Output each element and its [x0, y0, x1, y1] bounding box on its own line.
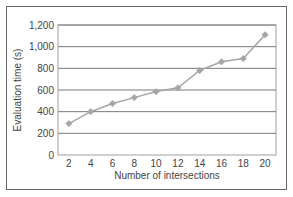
x-tick-label: 2 — [66, 158, 72, 169]
y-tick-label: 0 — [48, 150, 54, 161]
data-line — [69, 35, 265, 124]
x-tick-label: 6 — [110, 158, 116, 169]
diamond-marker — [88, 108, 94, 114]
gridlines — [58, 25, 276, 133]
x-axis-ticks: 2468101214161820 — [66, 158, 271, 169]
y-tick-label: 800 — [37, 63, 54, 74]
y-tick-label: 1,000 — [29, 41, 54, 52]
x-tick-label: 4 — [88, 158, 94, 169]
y-tick-label: 200 — [37, 128, 54, 139]
diamond-marker — [153, 88, 159, 94]
y-axis-ticks: 02004006008001,0001,200 — [29, 20, 54, 161]
diamond-marker — [109, 100, 115, 106]
x-tick-label: 18 — [238, 158, 250, 169]
diamond-marker — [218, 59, 224, 65]
x-tick-label: 8 — [132, 158, 138, 169]
y-tick-label: 600 — [37, 85, 54, 96]
x-axis-label: Number of intersections — [114, 170, 220, 181]
x-tick-label: 20 — [260, 158, 272, 169]
diamond-marker — [66, 120, 72, 126]
data-markers — [66, 32, 269, 127]
x-tick-label: 16 — [216, 158, 228, 169]
y-tick-label: 1,200 — [29, 20, 54, 31]
x-tick-label: 10 — [151, 158, 163, 169]
x-tick-label: 12 — [172, 158, 184, 169]
diamond-marker — [131, 94, 137, 100]
y-axis-label: Evaluation time (s) — [12, 49, 23, 132]
line-chart: 02004006008001,0001,200 2468101214161820… — [0, 0, 293, 197]
x-tick-label: 14 — [194, 158, 206, 169]
y-tick-label: 400 — [37, 106, 54, 117]
